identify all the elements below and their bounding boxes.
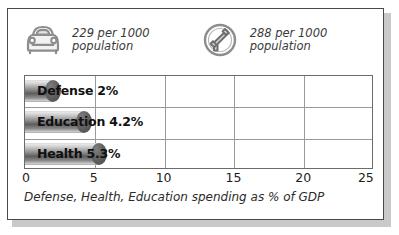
stat-block-cars: 229 per 1000 population (21, 9, 150, 59)
statistics-row: 229 per 1000 population (8, 9, 383, 75)
chart-caption: Defense, Health, Education spending as %… (24, 190, 324, 204)
bar-label-health: Health 5.3% (37, 146, 120, 161)
bar-row[interactable]: Defense 2% (25, 76, 374, 107)
cars-stat-line2: population (72, 40, 150, 53)
telephone-icon (199, 21, 243, 59)
x-tick-label: 5 (90, 170, 98, 185)
bar-row[interactable]: Education 4.2% (25, 107, 374, 138)
car-icon (21, 21, 65, 59)
telephones-stat-line1: 288 per 1000 (250, 26, 328, 40)
cars-stat-line1: 229 per 1000 (72, 26, 150, 40)
cars-per-1000-text: 229 per 1000 population (72, 27, 150, 53)
x-tick-label: 10 (156, 170, 172, 185)
spending-bar-chart: Defense 2%Education 4.2%Health 5.3% 0510… (8, 73, 383, 221)
x-tick-label: 0 (22, 170, 30, 185)
chart-x-axis: 0510152025 (24, 170, 373, 188)
x-tick-label: 20 (295, 170, 311, 185)
stat-block-telephones: 288 per 1000 population (199, 9, 328, 59)
x-tick-label: 15 (225, 170, 241, 185)
infographic-panel: 229 per 1000 population (7, 8, 384, 220)
bar-label-education: Education 4.2% (37, 114, 143, 129)
telephones-stat-line2: population (250, 40, 328, 53)
telephones-per-1000-text: 288 per 1000 population (250, 27, 328, 53)
bar-label-defense: Defense 2% (37, 83, 118, 98)
bar-row[interactable]: Health 5.3% (25, 139, 374, 170)
x-tick-label: 25 (358, 170, 374, 185)
chart-plot-area: Defense 2%Education 4.2%Health 5.3% (24, 75, 373, 169)
